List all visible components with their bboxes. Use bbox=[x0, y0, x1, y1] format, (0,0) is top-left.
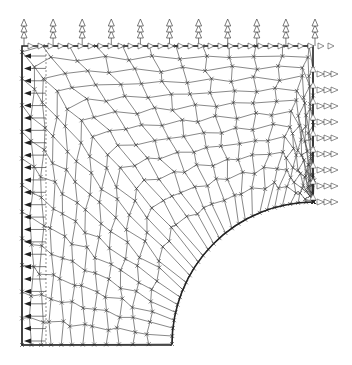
mesh-elements bbox=[22, 46, 314, 345]
plate-boundary bbox=[22, 46, 313, 345]
fem-mesh-diagram bbox=[0, 0, 352, 365]
